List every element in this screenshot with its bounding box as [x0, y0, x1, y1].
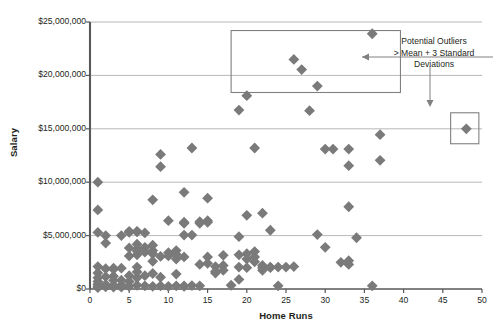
x-tick-label: 15: [193, 295, 223, 305]
scatter-chart: Salary Home Runs $0$5,000,000$10,000,000…: [0, 0, 493, 326]
data-point: [234, 231, 245, 242]
data-point: [202, 217, 213, 228]
data-point: [265, 225, 276, 236]
data-point: [155, 149, 166, 160]
y-axis-title: Salary: [8, 113, 19, 173]
data-point: [147, 194, 158, 205]
y-tick-label: $0: [0, 283, 86, 293]
x-tick-label: 30: [310, 295, 340, 305]
x-tick-label: 50: [467, 295, 493, 305]
data-point: [92, 177, 103, 188]
x-tick-label: 10: [153, 295, 183, 305]
x-tick-label: 0: [75, 295, 105, 305]
data-point: [335, 257, 346, 268]
data-point: [304, 105, 315, 116]
x-tick-label: 45: [428, 295, 458, 305]
x-tick-label: 5: [114, 295, 144, 305]
data-point: [241, 210, 252, 221]
data-point: [375, 129, 386, 140]
data-point: [100, 238, 111, 249]
data-point: [343, 160, 354, 171]
data-point: [187, 230, 198, 241]
data-point: [155, 161, 166, 172]
data-point: [171, 269, 182, 280]
data-point: [328, 144, 339, 155]
y-tick-label: $25,000,000: [0, 16, 86, 26]
data-point: [249, 143, 260, 154]
x-tick-label: 25: [271, 295, 301, 305]
x-tick-label: 40: [389, 295, 419, 305]
y-tick-label: $15,000,000: [0, 123, 86, 133]
data-point: [187, 143, 198, 154]
data-point: [351, 232, 362, 243]
y-tick-label: $20,000,000: [0, 69, 86, 79]
x-axis-title: Home Runs: [90, 310, 482, 321]
data-point: [202, 193, 213, 204]
data-point: [343, 201, 354, 212]
data-point: [218, 250, 229, 261]
data-point: [234, 274, 245, 285]
data-point: [288, 54, 299, 65]
data-point: [116, 263, 127, 274]
data-point: [163, 215, 174, 226]
data-point: [92, 205, 103, 216]
x-tick-label: 20: [232, 295, 262, 305]
data-point: [461, 123, 472, 134]
data-point: [241, 90, 252, 101]
data-point: [139, 228, 150, 239]
data-point: [296, 64, 307, 75]
annotation-line: > Mean + 3 Standard: [374, 48, 493, 60]
outlier-callout: Potential Outliers> Mean + 3 StandardDev…: [374, 36, 493, 71]
y-tick-label: $10,000,000: [0, 176, 86, 186]
annotation-line: Potential Outliers: [374, 36, 493, 48]
data-point: [320, 242, 331, 253]
data-point: [179, 187, 190, 198]
x-tick-label: 35: [349, 295, 379, 305]
data-point: [312, 81, 323, 92]
data-point: [288, 261, 299, 272]
data-point: [241, 262, 252, 273]
data-point: [234, 105, 245, 116]
data-point: [375, 155, 386, 166]
data-point: [257, 208, 268, 219]
annotation-line: Deviations: [374, 59, 493, 71]
data-point: [312, 229, 323, 240]
data-point: [179, 217, 190, 228]
y-tick-label: $5,000,000: [0, 230, 86, 240]
data-point: [343, 144, 354, 155]
